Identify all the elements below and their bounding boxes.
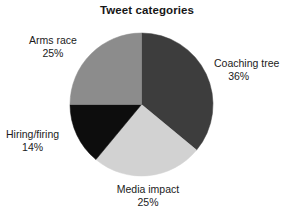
slice-label-media-impact: Media impact 25% bbox=[96, 183, 200, 208]
slice-label-hiring-firing-name: Hiring/firing bbox=[6, 128, 59, 141]
slice-label-media-impact-name: Media impact bbox=[96, 183, 200, 196]
slice-label-coaching-tree-percent: 36% bbox=[214, 70, 279, 83]
slice-label-hiring-firing-percent: 14% bbox=[6, 141, 59, 154]
slice-label-arms-race-percent: 25% bbox=[29, 47, 77, 60]
slice-label-arms-race: Arms race 25% bbox=[29, 34, 77, 59]
slice-label-media-impact-percent: 25% bbox=[96, 196, 200, 209]
slice-label-hiring-firing: Hiring/firing 14% bbox=[6, 128, 59, 153]
slice-label-coaching-tree-name: Coaching tree bbox=[214, 57, 279, 70]
pie-slice-arms-race bbox=[70, 33, 142, 105]
pie-chart-figure: Tweet categories Coaching tree 36% Arms … bbox=[0, 0, 294, 219]
slice-label-coaching-tree: Coaching tree 36% bbox=[214, 57, 279, 82]
slice-label-arms-race-name: Arms race bbox=[29, 34, 77, 47]
pie-slices-group bbox=[70, 33, 213, 176]
